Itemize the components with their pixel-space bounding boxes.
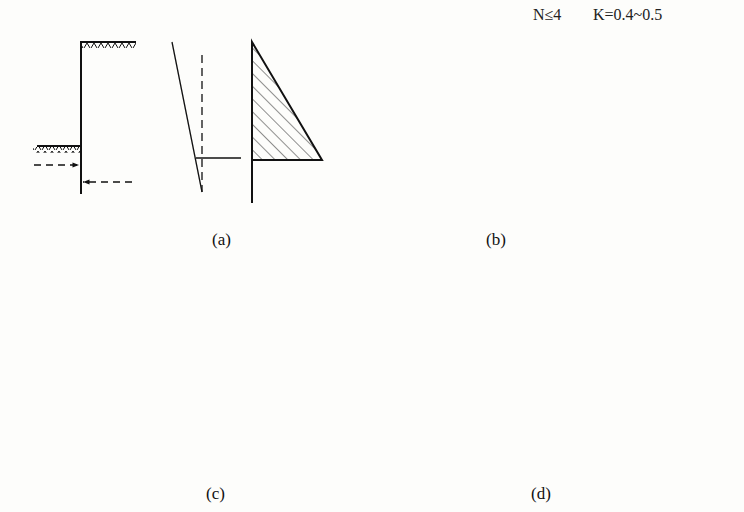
panel-a xyxy=(33,41,322,203)
wall-a xyxy=(33,41,136,194)
condition-n: N≤4 xyxy=(533,6,561,24)
panel-label-c: (c) xyxy=(206,484,225,504)
panel-label-a: (a) xyxy=(212,230,231,250)
panel-label-b: (b) xyxy=(486,230,506,250)
panel-label-d: (d) xyxy=(531,484,551,504)
diagram-canvas xyxy=(0,0,744,512)
deflection-a xyxy=(172,42,241,192)
pressure-a xyxy=(252,42,322,203)
ground-top-icon xyxy=(82,43,136,49)
condition-k: K=0.4~0.5 xyxy=(593,6,662,24)
ground-bottom-icon xyxy=(33,147,81,153)
